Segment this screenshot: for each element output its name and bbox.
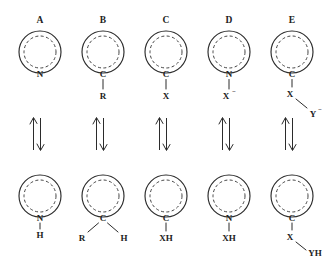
panel-letter-d: D [226,15,233,25]
aromatic-ring-icon-e-top [271,31,313,73]
equilibrium-arrow-icon-d [219,118,233,151]
substituent-d-bottom-xh: XH [222,233,236,243]
panel-letter-b: B [100,15,107,25]
aromatic-ring-icon-b-bottom [82,175,124,217]
bond-b-bottom-left [88,223,99,232]
equilibrium-arrow-icon-e [282,118,296,151]
aromatic-ring-icon-e-bottom [271,175,313,217]
ring-atom-a-top: N [37,69,44,79]
ring-atom-d-bottom: N [226,213,233,223]
aromatic-ring-icon-b-top [82,31,124,73]
panel-a: A N N H [19,15,61,240]
charge-d-top-x: − [232,88,236,95]
equilibrium-arrow-icon-a [30,118,44,151]
substituent-a-bottom-h: H [36,230,43,240]
ring-atom-d-top: N [226,69,233,79]
panel-b: B C R C R H [79,15,128,243]
panel-letter-a: A [37,15,44,25]
substituent-b-bottom-h: H [120,233,127,243]
substituent-c-top-x: X [163,91,170,101]
bond-b-bottom-right [108,223,119,232]
substituent-e-top-x: X [287,89,294,99]
substituent-e-bottom-x: X [287,232,294,242]
aromatic-ring-icon-c-top [145,31,187,73]
ring-atom-e-bottom: C [289,213,296,223]
panel-letter-c: C [163,15,170,25]
aromatic-ring-icon-c-bottom [145,175,187,217]
aromatic-ring-icon-a-bottom [19,175,61,217]
panel-letter-e: E [289,15,295,25]
panel-e: E C X Y − C X YH [271,15,322,258]
ring-atom-c-bottom: C [163,213,170,223]
bond-e-bottom-2 [296,242,306,250]
substituent-b-top-r: R [100,91,107,101]
substituent-c-bottom-xh: XH [159,233,173,243]
charge-e-top-y: − [318,106,322,113]
ring-atom-b-top: C [100,69,107,79]
panel-c: C C X C XH [145,15,187,243]
equilibrium-arrow-icon-b [93,118,107,151]
ring-atom-b-bottom: C [100,213,107,223]
aromatic-ring-icon-a-top [19,31,61,73]
substituent-e-bottom-yh: YH [308,248,322,258]
ring-atom-c-top: C [163,69,170,79]
substituent-d-top-x: X [223,91,230,101]
substituent-e-top-y: Y [310,109,317,119]
ring-atom-e-top: C [289,69,296,79]
panel-d: D N X − N XH [208,15,250,243]
equilibrium-arrow-icon-c [156,118,170,151]
bond-e-top-2 [296,99,307,108]
aromatic-ring-icon-d-top [208,31,250,73]
equilibrium-scheme-figure: A N N H B C R [0,0,329,258]
aromatic-ring-icon-d-bottom [208,175,250,217]
substituent-b-bottom-r: R [79,233,86,243]
ring-atom-a-bottom: N [37,213,44,223]
